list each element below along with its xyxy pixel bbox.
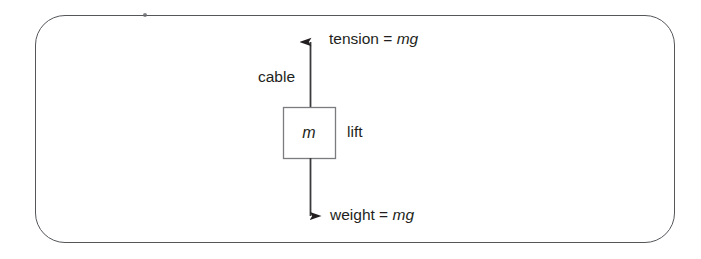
mass-symbol-label: m [283,107,335,158]
figure-root: tension = mg cable m lift weight = mg [0,0,701,259]
weight-label-variable: mg [392,206,414,223]
tension-label-variable: mg [397,30,419,47]
weight-label: weight = mg [330,207,414,223]
lift-label: lift [347,124,363,140]
tension-label-text: tension = [329,30,397,47]
cable-label: cable [258,69,295,85]
tension-label: tension = mg [329,31,418,47]
weight-label-text: weight = [330,206,392,223]
